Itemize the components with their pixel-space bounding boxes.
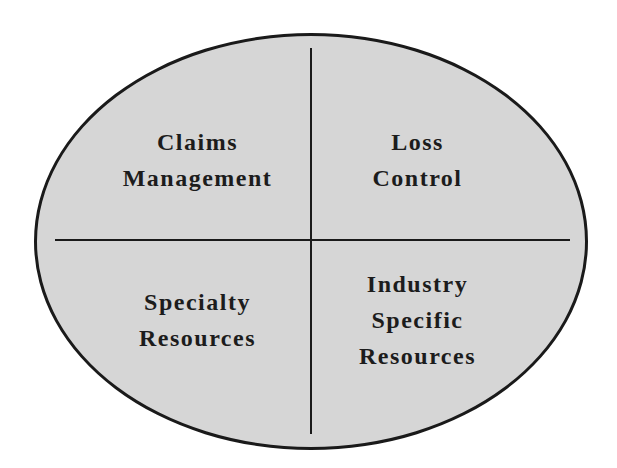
vertical-divider (310, 48, 312, 434)
quadrant-claims-management: Claims Management (90, 124, 305, 196)
quadrant-label-line: Resources (90, 320, 305, 356)
quadrant-loss-control: Loss Control (320, 124, 515, 196)
quadrant-label-line: Specialty (90, 284, 305, 320)
quadrant-label-line: Management (90, 160, 305, 196)
quadrant-label-line: Loss (320, 124, 515, 160)
quadrant-label-line: Control (320, 160, 515, 196)
quadrant-industry-specific-resources: Industry Specific Resources (320, 266, 515, 374)
quadrant-label-line: Specific (320, 302, 515, 338)
quadrant-specialty-resources: Specialty Resources (90, 284, 305, 356)
quadrant-label-line: Resources (320, 338, 515, 374)
quadrant-label-line: Claims (90, 124, 305, 160)
horizontal-divider (55, 239, 570, 241)
quadrant-ellipse-diagram: Claims Management Loss Control Specialty… (0, 0, 617, 468)
quadrant-label-line: Industry (320, 266, 515, 302)
